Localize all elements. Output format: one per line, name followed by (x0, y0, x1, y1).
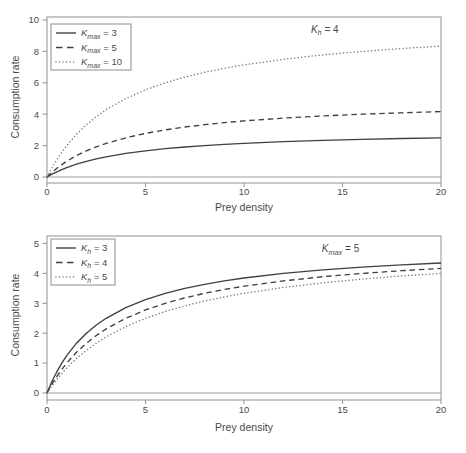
top-chart: 051015200246810Prey densityConsumption r… (9, 14, 446, 213)
top-chart-y-axis-label: Consumption rate (9, 55, 21, 138)
bottom-chart-y-tick-label: 2 (34, 328, 39, 339)
top-chart-legend: Kmax = 3Kmax = 5Kmax = 10 (51, 24, 131, 70)
top-chart-x-tick-label: 0 (44, 186, 49, 197)
bottom-chart-annotation: Kmax = 5 (322, 243, 360, 256)
top-chart-x-tick-label: 5 (143, 186, 148, 197)
top-chart-y-tick-label: 0 (34, 171, 39, 182)
bottom-chart-y-tick-label: 0 (34, 387, 39, 398)
bottom-chart: 05101520012345Prey densityConsumption ra… (9, 236, 446, 433)
bottom-chart-x-tick-label: 15 (337, 404, 348, 415)
top-chart-y-tick-label: 8 (34, 46, 39, 57)
top-chart-x-tick-label: 10 (239, 186, 250, 197)
bottom-chart-x-tick-label: 0 (44, 404, 49, 415)
top-chart-x-axis-label: Prey density (215, 201, 274, 213)
top-chart-x-tick-label: 20 (436, 186, 447, 197)
legend-label-kmax-10: Kmax = 10 (81, 56, 122, 68)
curve-kh-4 (47, 268, 441, 393)
top-chart-x-tick-label: 15 (337, 186, 348, 197)
bottom-chart-y-tick-label: 3 (34, 298, 39, 309)
legend-label-kh-5: Kh = 5 (81, 271, 107, 283)
bottom-chart-y-axis-label: Consumption rate (9, 273, 21, 356)
bottom-chart-x-tick-label: 10 (239, 404, 250, 415)
legend-label-kh-3: Kh = 3 (81, 242, 107, 254)
curve-kh-5 (47, 273, 441, 393)
legend-label-kh-4: Kh = 4 (81, 257, 107, 269)
bottom-chart-y-tick-label: 5 (34, 238, 39, 249)
top-chart-y-tick-label: 10 (28, 14, 39, 25)
bottom-chart-x-tick-label: 5 (143, 404, 148, 415)
top-chart-y-tick-label: 6 (34, 77, 39, 88)
bottom-chart-legend: Kh = 3Kh = 4Kh = 5 (51, 239, 115, 285)
bottom-chart-x-axis-label: Prey density (215, 421, 274, 433)
top-chart-y-tick-label: 2 (34, 140, 39, 151)
functional-response-figure: 051015200246810Prey densityConsumption r… (0, 0, 466, 453)
figure-page: 051015200246810Prey densityConsumption r… (0, 0, 466, 453)
top-chart-y-tick-label: 4 (34, 109, 39, 120)
bottom-chart-x-tick-label: 20 (436, 404, 447, 415)
curve-kmax-5 (47, 112, 441, 177)
bottom-chart-y-tick-label: 4 (34, 268, 39, 279)
bottom-chart-y-tick-label: 1 (34, 357, 39, 368)
top-chart-annotation: Kh = 4 (311, 24, 339, 37)
